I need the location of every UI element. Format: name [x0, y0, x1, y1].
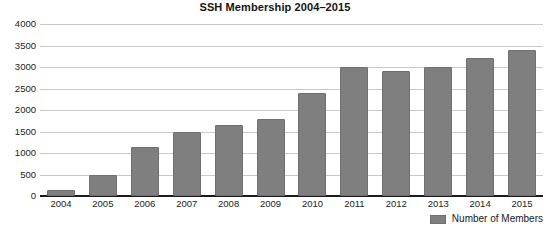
- bar-2015: [508, 50, 536, 196]
- bar-2007: [173, 132, 201, 197]
- x-axis-tick-label-2012: 2012: [375, 199, 417, 209]
- x-axis-tick-label-2011: 2011: [333, 199, 375, 209]
- bar-chart: SSH Membership 2004–2015 050010001500200…: [0, 0, 550, 233]
- y-axis-tick-label: 1000: [0, 148, 36, 158]
- x-axis-tick-label-2013: 2013: [417, 199, 459, 209]
- bars-layer: [40, 24, 543, 196]
- y-axis-tick-label: 2000: [0, 105, 36, 115]
- bar-2014: [466, 58, 494, 196]
- bar-2004: [47, 190, 75, 196]
- y-axis-tick-label: 2500: [0, 84, 36, 94]
- legend-label-number-of-members: Number of Members: [452, 214, 543, 224]
- x-axis-tick-label-2015: 2015: [501, 199, 543, 209]
- plot-area: [40, 24, 543, 196]
- bar-2009: [257, 119, 285, 196]
- bar-2005: [89, 175, 117, 197]
- x-axis-tick-label-2004: 2004: [40, 199, 82, 209]
- bar-2008: [215, 125, 243, 196]
- y-axis-tick-label: 4000: [0, 19, 36, 29]
- bar-2010: [298, 93, 326, 196]
- x-axis-tick-label-2007: 2007: [166, 199, 208, 209]
- x-axis-tick-label-2006: 2006: [124, 199, 166, 209]
- y-axis-tick-label: 1500: [0, 127, 36, 137]
- x-axis-tick-label-2014: 2014: [459, 199, 501, 209]
- y-axis-tick-label: 3500: [0, 41, 36, 51]
- bar-2006: [131, 147, 159, 196]
- x-axis-tick-label-2010: 2010: [291, 199, 333, 209]
- y-axis-tick-label: 3000: [0, 62, 36, 72]
- bar-2013: [424, 67, 452, 196]
- bar-2011: [340, 67, 368, 196]
- legend-swatch-number-of-members: [430, 215, 446, 224]
- chart-title: SSH Membership 2004–2015: [0, 1, 550, 13]
- y-axis: 05001000150020002500300035004000: [0, 24, 36, 196]
- x-axis: 2004200520062007200820092010201120122013…: [40, 199, 543, 213]
- bar-2012: [382, 71, 410, 196]
- y-axis-tick-label: 0: [0, 191, 36, 201]
- chart-legend: Number of Members: [430, 214, 543, 224]
- x-axis-tick-label-2009: 2009: [250, 199, 292, 209]
- x-axis-tick-label-2008: 2008: [208, 199, 250, 209]
- x-axis-tick-label-2005: 2005: [82, 199, 124, 209]
- y-axis-tick-label: 500: [0, 170, 36, 180]
